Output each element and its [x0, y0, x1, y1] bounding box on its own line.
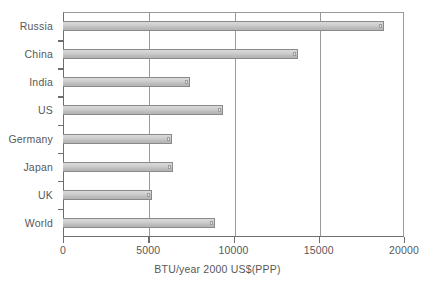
bar-india[interactable]	[63, 77, 190, 87]
y-axis-label-russia: Russia	[20, 12, 53, 40]
y-axis-labels: Russia China India US Germany Japan UK W…	[0, 12, 61, 237]
y-axis-tick	[58, 40, 63, 41]
bar-row	[63, 153, 404, 181]
y-axis-tick	[58, 96, 63, 97]
bar-chart: Russia China India US Germany Japan UK W…	[0, 0, 435, 289]
x-axis-labels: 0 5000 10000 15000 20000	[0, 244, 435, 260]
bar-row	[63, 181, 404, 209]
x-axis-tick	[319, 237, 320, 243]
x-axis-tick	[148, 237, 149, 243]
bar-china[interactable]	[63, 49, 298, 59]
bar-cap-icon	[185, 80, 188, 84]
bar-russia[interactable]	[63, 21, 384, 31]
bar-uk[interactable]	[63, 190, 152, 200]
bar-world[interactable]	[63, 218, 215, 228]
bar-row	[63, 68, 404, 96]
bars-layer	[63, 12, 404, 237]
bar-japan[interactable]	[63, 162, 173, 172]
x-axis-label-0: 0	[60, 244, 66, 256]
x-axis-tick	[63, 237, 64, 243]
y-axis-tick	[58, 125, 63, 126]
bar-row	[63, 96, 404, 124]
x-axis-label-20000: 20000	[389, 244, 419, 256]
y-axis-tick	[58, 153, 63, 154]
bar-cap-icon	[147, 193, 150, 197]
bar-cap-icon	[293, 52, 296, 56]
x-axis-label-5000: 5000	[136, 244, 160, 256]
y-axis-label-us: US	[38, 96, 53, 124]
y-axis-label-world: World	[25, 209, 53, 237]
bar-row	[63, 209, 404, 237]
bar-us[interactable]	[63, 105, 223, 115]
y-axis-tick	[58, 181, 63, 182]
x-axis-label-10000: 10000	[218, 244, 248, 256]
bar-row	[63, 125, 404, 153]
x-axis-tick	[234, 237, 235, 243]
bar-cap-icon	[168, 165, 171, 169]
bar-row	[63, 12, 404, 40]
y-axis-tick	[58, 209, 63, 210]
y-axis-label-germany: Germany	[8, 125, 53, 153]
bar-germany[interactable]	[63, 134, 172, 144]
bar-cap-icon	[218, 108, 221, 112]
x-axis-label-15000: 15000	[304, 244, 334, 256]
y-axis-tick	[58, 68, 63, 69]
y-axis-label-india: India	[29, 68, 53, 96]
bar-cap-icon	[210, 221, 213, 225]
x-axis-title: BTU/year 2000 US$(PPP)	[0, 263, 435, 275]
y-axis-label-uk: UK	[38, 181, 53, 209]
x-axis-tick	[404, 237, 405, 243]
y-axis-label-china: China	[25, 40, 53, 68]
bar-cap-icon	[167, 137, 170, 141]
bar-row	[63, 40, 404, 68]
y-axis-label-japan: Japan	[23, 153, 53, 181]
bar-cap-icon	[379, 24, 382, 28]
